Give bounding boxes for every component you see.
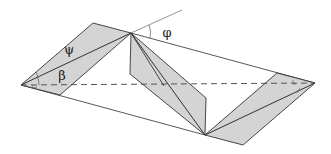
phi-angle-ray <box>131 10 182 38</box>
phi-label: φ <box>162 25 171 40</box>
beta-label: β <box>58 68 66 83</box>
folding-geometry-diagram: ψ β φ <box>0 0 331 154</box>
psi-label: ψ <box>64 42 74 57</box>
